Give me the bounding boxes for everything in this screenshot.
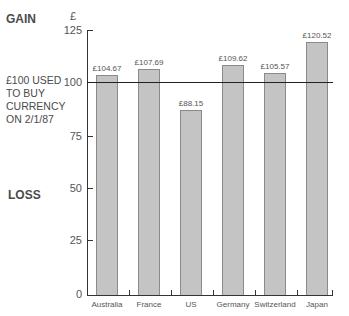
bar-value-label: £107.69: [129, 58, 169, 67]
bar-value-label: £120.52: [297, 31, 337, 40]
bar-switzerland: [264, 73, 286, 295]
category-label: Japan: [287, 300, 347, 309]
y-tick-label: 100: [52, 76, 82, 88]
x-tick: [129, 290, 130, 295]
bar-france: [138, 69, 160, 295]
y-tick-label: 125: [52, 24, 82, 36]
y-tick-label: 25: [52, 234, 82, 246]
note-line: CURRENCY: [6, 100, 66, 113]
y-tick: [87, 30, 93, 31]
y-axis-unit: £: [70, 10, 76, 22]
bar-value-label: £105.57: [255, 62, 295, 71]
note-line: TO BUY: [6, 87, 66, 100]
bar-germany: [222, 65, 244, 295]
reference-line-100: [87, 82, 333, 83]
y-tick: [87, 136, 93, 137]
y-tick-label: 0: [52, 288, 82, 300]
note-line: ON 2/1/87: [6, 113, 66, 126]
bar-value-label: £104.67: [87, 64, 127, 73]
x-tick: [332, 290, 333, 295]
bar-value-label: £109.62: [213, 54, 253, 63]
x-tick: [213, 290, 214, 295]
loss-label: LOSS: [8, 188, 41, 202]
x-tick: [171, 290, 172, 295]
gain-label: GAIN: [6, 12, 36, 26]
bar-japan: [306, 42, 328, 295]
y-tick-label: 75: [52, 130, 82, 142]
bar-us: [180, 110, 202, 295]
x-tick: [255, 290, 256, 295]
y-tick: [87, 240, 93, 241]
y-tick-label: 50: [52, 182, 82, 194]
x-axis: [87, 295, 333, 296]
y-tick: [87, 188, 93, 189]
x-tick: [297, 290, 298, 295]
bar-value-label: £88.15: [171, 99, 211, 108]
bar-australia: [96, 75, 118, 295]
